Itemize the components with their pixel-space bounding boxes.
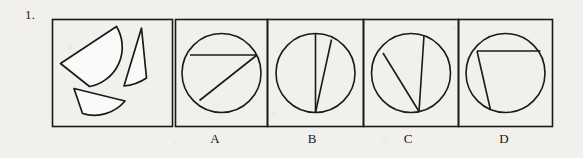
option-c-label: C: [396, 131, 420, 147]
option-c-circle: [372, 34, 451, 113]
option-b-chord-sliver: [316, 40, 332, 113]
option-a-label: A: [203, 131, 227, 147]
option-a-figure: [182, 34, 261, 113]
option-c-figure: [372, 34, 451, 113]
option-d-figure: [466, 34, 545, 113]
question-container: 1.: [0, 0, 583, 158]
option-b-label: B: [300, 131, 324, 147]
piece-narrow-sliver-segment: [124, 28, 147, 86]
option-c-chord-vertical: [419, 36, 424, 112]
piece-small-flat-segment: [74, 89, 125, 116]
option-c-chord-diagonal: [383, 53, 419, 112]
option-d-label: D: [492, 131, 516, 147]
option-a-circle: [182, 34, 261, 113]
option-d-panel-border: [459, 20, 553, 127]
option-a-chord-diagonal: [200, 55, 258, 101]
option-d-chord-steep: [477, 51, 491, 110]
option-a-panel-border: [176, 20, 268, 127]
piece-large-circular-segment: [61, 27, 123, 87]
option-d-circle: [466, 34, 545, 113]
option-c-panel-border: [364, 20, 459, 127]
option-b-figure: [276, 34, 355, 113]
